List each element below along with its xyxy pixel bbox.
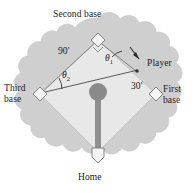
label-second-base: Second base — [53, 9, 101, 19]
label-first-base: First base — [163, 84, 195, 105]
label-angle-theta-one: θ1 — [105, 53, 113, 67]
label-home-plate: Home — [78, 172, 102, 182]
label-distance-player: 30' — [131, 81, 143, 91]
label-player: Player — [147, 58, 172, 68]
player-position-dot — [135, 69, 139, 73]
theta-two-subscript: 2 — [67, 75, 70, 82]
theta-one-subscript: 1 — [110, 58, 113, 65]
home-plate-marker — [92, 148, 104, 163]
label-distance-baseline: 90' — [58, 46, 70, 56]
label-angle-theta-two: θ2 — [62, 70, 70, 84]
label-third-base: Third base — [4, 83, 38, 104]
baseball-diamond-figure: Second base Third base First base Home P… — [0, 0, 196, 193]
